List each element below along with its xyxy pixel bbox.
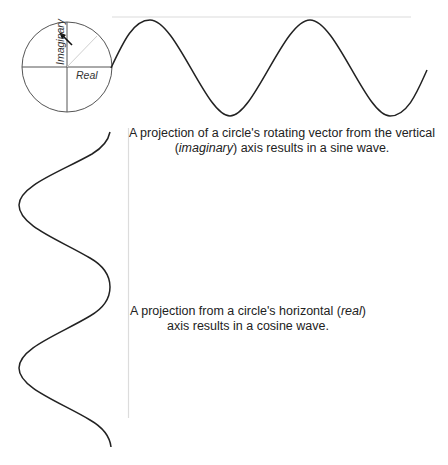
unit-circle: Imaginary Real [22,18,112,112]
cosine-caption-text: A projection from a circle's horizontal … [130,304,341,318]
sine-wave [111,20,427,116]
sine-caption-emphasis: imaginary [179,141,233,155]
sine-caption-text-end: ) axis results in a sine wave. [233,141,389,155]
real-axis-label: Real [76,69,98,81]
imaginary-axis-label: Imaginary [54,18,66,65]
sine-caption: A projection of a circle's rotating vect… [126,126,438,156]
cosine-caption-emphasis: real [341,304,362,318]
rotation-guide-line [67,36,97,67]
cosine-caption: A projection from a circle's horizontal … [130,304,366,334]
cosine-wave [19,132,111,447]
diagram-canvas: Imaginary Real [0,0,448,465]
